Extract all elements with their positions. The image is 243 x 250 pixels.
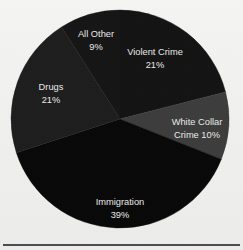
pie-slice-label-value: 9% <box>89 42 102 52</box>
pie-chart-figure: Violent Crime21%White CollarCrime 10%Imm… <box>0 0 243 250</box>
pie-slice-label-name: Drugs <box>39 82 64 92</box>
figure-bottom-rule <box>3 244 240 246</box>
pie-slice-label-name: White Collar <box>172 117 223 127</box>
pie-slice-label-value: 39% <box>111 210 130 220</box>
pie-slice-label-value: 21% <box>42 95 61 105</box>
pie-slice-label-value: Crime 10% <box>174 130 220 140</box>
pie-slice-label-name: Violent Crime <box>127 47 183 57</box>
pie-slice-label-name: All Other <box>78 29 114 39</box>
pie-slice-label-name: Immigration <box>96 197 145 207</box>
pie-slice-label-value: 21% <box>146 60 165 70</box>
pie-chart-canvas: Violent Crime21%White CollarCrime 10%Imm… <box>0 0 243 250</box>
